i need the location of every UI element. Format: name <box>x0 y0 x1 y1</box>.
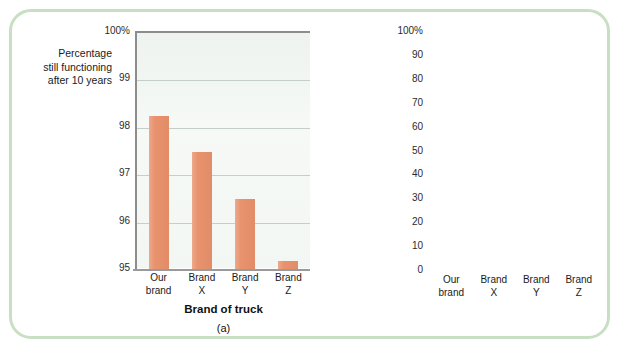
y-tick-label: 99 <box>86 73 130 83</box>
y-tick-label: 30 <box>383 193 423 203</box>
y-tick-label: 10 <box>383 241 423 251</box>
y-tick-label: 60 <box>383 122 423 132</box>
y-tick-label: 100% <box>86 26 130 36</box>
y-tick-label: 98 <box>86 121 130 131</box>
y-tick-label: 40 <box>383 169 423 179</box>
bar <box>192 152 212 270</box>
y-tick-label: 70 <box>383 98 423 108</box>
x-axis-title-a: Brand of truck <box>137 303 310 315</box>
y-tick-label: 96 <box>86 216 130 226</box>
y-tick-label: 20 <box>383 217 423 227</box>
gridline <box>137 80 310 81</box>
chart-panel-b: Percentage still functioning after 10 ye… <box>313 0 626 355</box>
panel-label-a: (a) <box>137 322 310 334</box>
chart-panel-a: Percentage still functioning after 10 ye… <box>0 0 313 355</box>
y-tick-label: 97 <box>86 168 130 178</box>
bar <box>235 199 255 269</box>
y-tick-label: 80 <box>383 74 423 84</box>
y-tick-label: 95 <box>86 263 130 273</box>
bar <box>278 261 298 269</box>
plot-area-a <box>137 31 310 268</box>
y-tick-label: 0 <box>383 265 423 275</box>
y-tick-label: 100% <box>383 26 423 36</box>
bar <box>149 116 169 269</box>
x-tick-label: Brand Z <box>258 272 318 297</box>
figure-page: Percentage still functioning after 10 ye… <box>0 0 627 355</box>
x-tick-label: Brand Z <box>549 274 609 299</box>
y-tick-label: 90 <box>383 50 423 60</box>
y-tick-label: 50 <box>383 146 423 156</box>
x-axis-line <box>133 269 310 271</box>
